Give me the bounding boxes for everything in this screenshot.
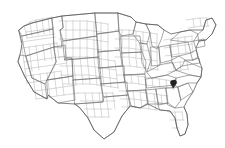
us-map-svg	[0, 0, 225, 148]
highlighted-county-core	[171, 80, 176, 85]
us-county-locator-map: United States county locator map highlig…	[0, 0, 225, 148]
